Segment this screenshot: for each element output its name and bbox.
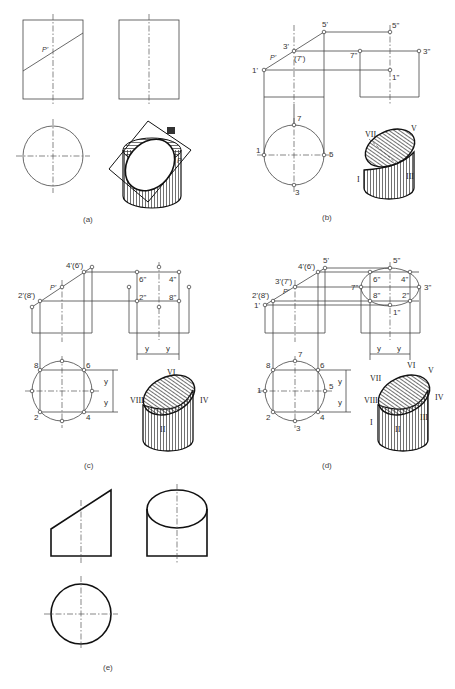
svg-text:3": 3" <box>424 283 431 292</box>
top-view-a <box>16 119 90 193</box>
svg-text:7: 7 <box>297 114 302 123</box>
svg-text:6": 6" <box>373 275 380 284</box>
figure-a: P' P (a) <box>16 14 191 224</box>
svg-text:4: 4 <box>86 413 91 422</box>
caption-e: (e) <box>103 663 113 672</box>
svg-text:4'(6'): 4'(6') <box>298 262 316 271</box>
svg-text:7": 7" <box>350 51 357 60</box>
isometric-view-d: VI V VII IV VIII I II III <box>364 361 444 451</box>
svg-text:6": 6" <box>139 275 146 284</box>
svg-text:1: 1 <box>257 386 262 395</box>
top-view-c: 8 6 2 4 y y <box>25 356 118 428</box>
svg-text:y: y <box>397 344 401 353</box>
svg-text:7: 7 <box>298 350 303 359</box>
svg-text:VI: VI <box>407 361 416 370</box>
svg-text:III: III <box>406 172 414 181</box>
svg-text:2": 2" <box>402 291 409 300</box>
svg-text:7": 7" <box>351 283 358 292</box>
svg-text:4": 4" <box>169 275 176 284</box>
svg-text:y: y <box>338 398 342 407</box>
caption-c: (c) <box>84 461 94 470</box>
svg-text:5': 5' <box>323 256 329 265</box>
svg-text:y: y <box>104 398 108 407</box>
svg-text:8: 8 <box>266 361 271 370</box>
svg-text:5': 5' <box>322 20 328 29</box>
figure-d: 1' 2'(8') 3'(7') 4'(6') 5' P' 5" 6" 4 <box>252 256 444 470</box>
svg-text:VI: VI <box>167 368 176 377</box>
svg-text:(7'): (7') <box>294 54 306 63</box>
svg-text:II: II <box>395 425 401 434</box>
figure-b: 1' 3' (7') 5' P' 5" 7" 3" 1" <box>252 20 430 222</box>
top-view-b: 1 7 5 3 <box>256 114 334 197</box>
svg-text:IV: IV <box>200 396 209 405</box>
svg-text:4": 4" <box>401 275 408 284</box>
svg-text:VIII: VIII <box>130 396 144 405</box>
isometric-view-a: P <box>109 121 191 208</box>
svg-text:4: 4 <box>320 413 325 422</box>
svg-text:2'(8'): 2'(8') <box>252 291 270 300</box>
svg-text:P': P' <box>270 54 277 61</box>
figure-e: (e) <box>44 484 207 672</box>
svg-text:1": 1" <box>392 73 399 82</box>
svg-text:6: 6 <box>320 361 325 370</box>
svg-text:2: 2 <box>34 413 39 422</box>
svg-text:II: II <box>160 425 166 434</box>
top-view-d: 1 2 3 4 5 6 7 8 y y <box>257 350 351 433</box>
svg-text:3'(7'): 3'(7') <box>275 277 293 286</box>
caption-b: (b) <box>322 213 332 222</box>
caption-d: (d) <box>322 461 332 470</box>
svg-text:2'(8'): 2'(8') <box>18 291 36 300</box>
svg-text:4'(6'): 4'(6') <box>66 261 84 270</box>
plane-label: P' <box>42 46 49 53</box>
figure-c: 2'(8') 4'(6') P' 6" 4" 2" 8" y y <box>18 261 209 470</box>
svg-text:3: 3 <box>296 424 301 433</box>
svg-text:1: 1 <box>256 146 261 155</box>
caption-a: (a) <box>83 215 93 224</box>
svg-text:IV: IV <box>435 393 444 402</box>
svg-text:I: I <box>370 418 373 427</box>
side-view-c: 6" 4" 2" 8" y y <box>127 262 191 360</box>
side-view-a <box>119 14 179 104</box>
svg-text:V: V <box>428 366 434 375</box>
svg-text:5: 5 <box>329 150 334 159</box>
svg-text:III: III <box>420 413 428 422</box>
svg-text:VII: VII <box>370 374 381 383</box>
svg-text:P': P' <box>283 288 290 295</box>
svg-text:y: y <box>166 344 170 353</box>
svg-text:VIII: VIII <box>364 396 378 405</box>
svg-text:3': 3' <box>283 42 289 51</box>
svg-text:P': P' <box>50 284 57 291</box>
svg-text:y: y <box>377 344 381 353</box>
svg-text:2: 2 <box>266 413 271 422</box>
svg-text:VII: VII <box>365 130 376 139</box>
svg-text:3: 3 <box>295 188 300 197</box>
front-view-a: P' <box>23 14 83 104</box>
svg-text:1": 1" <box>393 308 400 317</box>
svg-text:y: y <box>104 377 108 386</box>
svg-text:5": 5" <box>392 21 399 30</box>
svg-text:1': 1' <box>252 66 258 75</box>
svg-text:8": 8" <box>169 293 176 302</box>
svg-text:8: 8 <box>34 361 39 370</box>
svg-text:6: 6 <box>86 361 91 370</box>
svg-text:8": 8" <box>373 291 380 300</box>
svg-text:1': 1' <box>254 301 260 310</box>
svg-text:5": 5" <box>393 256 400 265</box>
svg-text:5: 5 <box>329 382 334 391</box>
svg-text:I: I <box>357 175 360 184</box>
drawing-canvas: P' P (a) <box>0 0 455 689</box>
front-view-e <box>51 490 111 563</box>
svg-text:2": 2" <box>139 293 146 302</box>
top-view-e <box>44 576 118 648</box>
side-view-b: 5" 7" 3" 1" <box>350 21 430 104</box>
svg-text:V: V <box>411 124 417 133</box>
isometric-view-c: VI VIII IV II <box>130 367 209 451</box>
isometric-view-b: VII V I III <box>357 122 421 199</box>
side-view-e <box>147 484 207 563</box>
svg-text:y: y <box>338 377 342 386</box>
svg-text:3": 3" <box>423 47 430 56</box>
svg-text:y: y <box>145 344 149 353</box>
iso-plane-label: P <box>177 157 182 164</box>
